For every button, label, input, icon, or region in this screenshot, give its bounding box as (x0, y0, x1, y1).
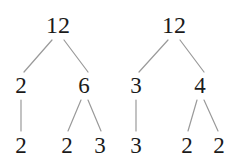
tree-edge (68, 100, 81, 131)
tree-node-r-b1: 2 (181, 134, 193, 157)
tree-edge (204, 100, 218, 131)
tree-node-l-b1: 2 (61, 134, 73, 157)
tree-node-l-root: 12 (46, 14, 70, 37)
tree-node-l-a1: 2 (15, 134, 27, 157)
tree-edge (64, 40, 88, 72)
tree-edge (24, 40, 52, 72)
tree-node-r-a: 3 (130, 74, 142, 97)
tree-edge (139, 40, 168, 72)
tree-node-r-root: 12 (162, 14, 186, 37)
tree-node-l-b2: 3 (94, 134, 106, 157)
tree-node-r-b2: 2 (213, 134, 225, 157)
factor-tree-diagram: 12262231234322 (0, 0, 239, 164)
tree-edge (188, 100, 197, 131)
tree-node-l-b: 6 (78, 74, 90, 97)
tree-node-r-b: 4 (194, 74, 206, 97)
tree-node-l-a: 2 (15, 74, 27, 97)
tree-edge (88, 100, 101, 131)
tree-edge (180, 40, 204, 72)
tree-node-r-a1: 3 (130, 134, 142, 157)
